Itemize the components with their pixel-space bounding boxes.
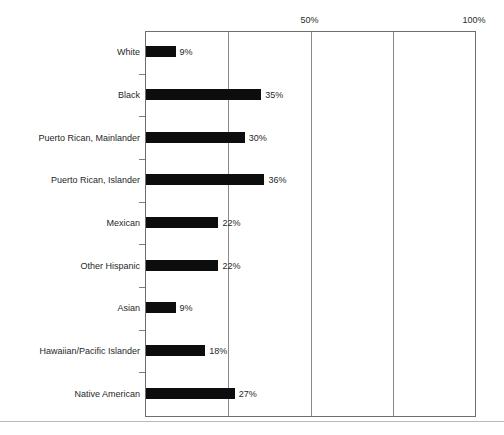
- category-label: Puerto Rican, Islander: [51, 174, 140, 186]
- category-label: Asian: [117, 302, 140, 314]
- category-label: White: [117, 46, 140, 58]
- y-axis-tick: [139, 74, 145, 75]
- y-axis-tick: [139, 116, 145, 117]
- category-label: Native American: [74, 388, 140, 400]
- bar-value-label: 22%: [222, 217, 240, 229]
- bar-value-label: 27%: [239, 388, 257, 400]
- y-axis-tick: [139, 159, 145, 160]
- x-tick-label-100: 100%: [462, 15, 485, 26]
- bar-value-label: 9%: [180, 302, 193, 314]
- gridline-50: [311, 32, 312, 416]
- y-axis-tick: [139, 287, 145, 288]
- bar: [146, 345, 205, 356]
- bar: [146, 217, 218, 228]
- y-axis-tick: [139, 244, 145, 245]
- x-tick-label-50: 50%: [300, 15, 318, 26]
- footer-divider: [0, 421, 504, 422]
- category-label: Other Hispanic: [80, 260, 140, 272]
- bar-value-label: 9%: [180, 46, 193, 58]
- bar: [146, 174, 264, 185]
- bar-value-label: 18%: [209, 345, 227, 357]
- category-label: Mexican: [106, 217, 140, 229]
- bar: [146, 132, 245, 143]
- bar-chart: 50%100% White9%Black35%Puerto Rican, Mai…: [0, 0, 504, 435]
- y-axis-tick: [139, 202, 145, 203]
- bar-value-label: 22%: [222, 260, 240, 272]
- y-axis-tick: [139, 372, 145, 373]
- bar: [146, 46, 176, 57]
- bar-value-label: 35%: [265, 89, 283, 101]
- gridline-75: [393, 32, 394, 416]
- category-label: Hawaiian/Pacific Islander: [39, 345, 140, 357]
- bar: [146, 89, 261, 100]
- bar: [146, 302, 176, 313]
- category-label: Black: [118, 89, 140, 101]
- bar: [146, 260, 218, 271]
- y-axis-tick: [139, 330, 145, 331]
- category-label: Puerto Rican, Mainlander: [38, 132, 140, 144]
- bar-value-label: 36%: [268, 174, 286, 186]
- bar-value-label: 30%: [249, 132, 267, 144]
- bar: [146, 388, 235, 399]
